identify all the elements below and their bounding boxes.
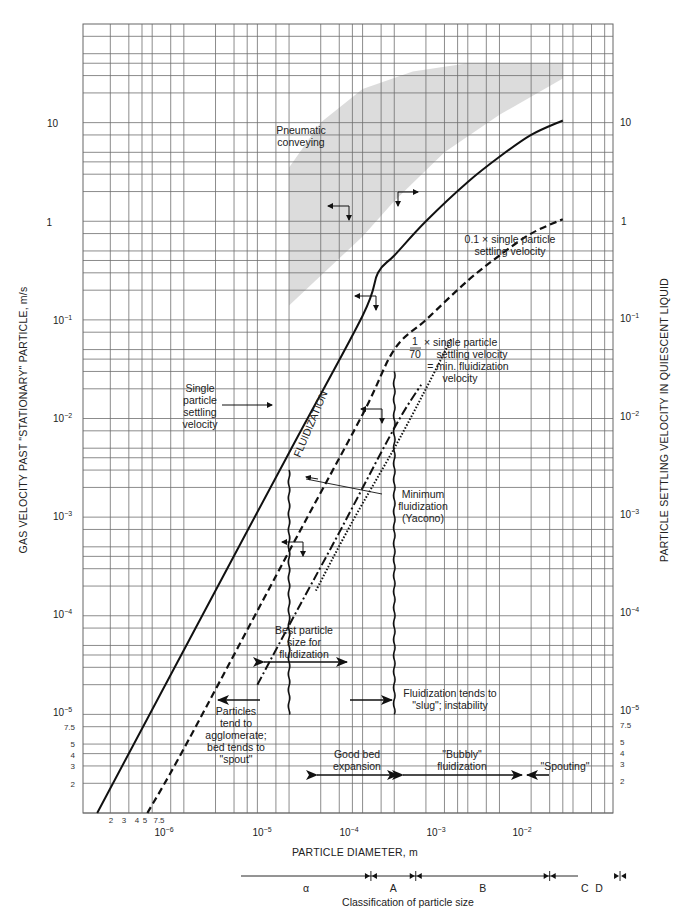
y-minor-label-right: 2 [620,777,625,786]
y-tick-label-right: 10−2 [620,410,639,422]
classification-arrow-icon [365,873,370,879]
svg-text:expansion: expansion [333,760,381,772]
y-tick-label: 10 [47,118,59,129]
svg-text:Particles: Particles [216,705,256,717]
svg-text:Good bed: Good bed [334,748,380,760]
y-tick-label: 10−5 [53,706,72,718]
x-axis-ticks: 2 3 4 5 7.5 10−6 10−5 10−4 10−3 10−2 [109,816,532,838]
x-tick-label: 10−4 [339,826,358,838]
svg-text:Pneumatic: Pneumatic [276,124,326,136]
y-axis-left-ticks: 10 1 10−1 10−2 10−3 10−4 10−5 7.5 5 4 3 … [46,118,75,789]
svg-text:size for: size for [287,636,321,648]
y-tick-label: 1 [46,217,52,228]
x-minor-label: 5 [143,816,148,825]
svg-text:agglomerate;: agglomerate; [205,729,266,741]
svg-text:settling velocity: settling velocity [436,348,508,360]
svg-text:velocity: velocity [442,372,478,384]
x-tick-label: 10−3 [426,826,445,838]
svg-text:Best particle: Best particle [275,624,333,636]
annotation-best-size: Best particle size for fluidization [275,624,333,660]
x-tick-label: 10−5 [252,826,271,838]
svg-text:bed tends to: bed tends to [207,741,265,753]
svg-text:Minimum: Minimum [402,488,445,500]
particle-classification: αABCD [241,871,626,894]
classification-arrow-icon [551,873,556,879]
svg-text:tend to: tend to [220,717,252,729]
y-axis-right-ticks: 10 1 10−1 10−2 10−3 10−4 10−5 7.5 5 4 3 … [620,117,639,786]
x-minor-label: 7.5 [153,816,165,825]
y-axis-title-right: PARTICLE SETTLING VELOCITY IN QUIESCENT … [658,278,670,562]
x-minor-label: 3 [122,816,127,825]
annotation-pneumatic: Pneumatic conveying [276,124,326,148]
svg-text:0.1 × single particle: 0.1 × single particle [465,233,556,245]
svg-text:velocity: velocity [182,418,218,430]
y-axis-title-left: GAS VELOCITY PAST "STATIONARY" PARTICLE,… [17,287,29,554]
min-fluidization-leader [306,479,382,494]
classification-arrow-icon [372,873,377,879]
y-tick-label: 10−3 [53,510,72,522]
min-fluidization-arrow-icon [306,477,318,479]
svg-text:70: 70 [409,348,421,360]
y-tick-label: 10−2 [53,412,72,424]
svg-text:1: 1 [412,335,418,347]
annotation-slug: Fluidization tends to "slug"; instabilit… [403,687,497,711]
y-tick-label: 10−1 [53,314,72,326]
y-minor-label: 7.5 [64,723,76,732]
annotation-bubbly: "Bubbly" fluidization [437,748,487,772]
classification-label: B [479,882,486,894]
classification-label: C [581,882,589,894]
y-tick-label-right: 10 [620,117,632,128]
svg-text:"Bubbly": "Bubbly" [442,748,482,760]
svg-text:fluidization: fluidization [437,760,487,772]
classification-arrow-icon [621,873,626,879]
annotation-spouting: "Spouting" [541,760,590,772]
svg-text:fluidization: fluidization [279,648,329,660]
svg-text:conveying: conveying [277,136,324,148]
svg-text:settling velocity: settling velocity [474,245,546,257]
svg-text:(Yacono): (Yacono) [402,512,444,524]
x-minor-label: 2 [109,816,114,825]
y-minor-label: 2 [71,780,76,789]
x-tick-label: 10−2 [512,826,531,838]
svg-text:Fluidization tends to: Fluidization tends to [403,687,497,699]
classification-label: D [595,882,603,894]
svg-text:"spout": "spout" [219,753,252,765]
y-tick-label-right: 1 [621,216,627,227]
y-minor-label-right: 5 [620,738,625,747]
fluidization-chart: 10 1 10−1 10−2 10−3 10−4 10−5 7.5 5 4 3 … [0,0,691,923]
y-minor-label: 4 [71,751,76,760]
classification-arrow-icon [410,873,415,879]
svg-text:particle: particle [183,394,217,406]
svg-text:settling: settling [183,406,216,418]
x-tick-label: 10−6 [154,826,173,838]
classification-label: A [390,882,397,894]
y-minor-label-right: 4 [620,749,625,758]
annotation-single-particle: Single particle settling velocity [182,382,218,430]
annotation-good-bed: Good bed expansion [333,748,381,772]
classification-label: α [303,882,309,894]
y-tick-label-right: 10−3 [620,508,639,520]
classification-title: Classification of particle size [342,896,474,908]
y-minor-label-right: 7.5 [620,721,632,730]
classification-arrow-icon [417,873,422,879]
y-minor-label: 5 [71,740,76,749]
svg-text:Single: Single [185,382,214,394]
y-tick-label-right: 10−1 [620,312,639,324]
y-tick-label: 10−4 [53,608,72,620]
classification-arrow-icon [614,873,619,879]
svg-text:fluidization: fluidization [398,500,448,512]
svg-text:= min. fluidization: = min. fluidization [427,360,509,372]
svg-text:× single particle: × single particle [424,336,497,348]
y-minor-label-right: 3 [620,760,625,769]
annotation-tenth-settling: 0.1 × single particle settling velocity [465,233,556,257]
y-tick-label-right: 10−5 [620,704,639,716]
x-minor-label: 4 [135,816,140,825]
x-axis-title: PARTICLE DIAMETER, m [292,846,418,858]
annotation-min-fluidization: Minimum fluidization (Yacono) [398,488,448,524]
series-line-dashed [147,219,562,813]
classification-arrow-icon [544,873,549,879]
y-minor-label: 3 [71,762,76,771]
y-tick-label-right: 10−4 [620,606,639,618]
svg-text:"slug"; instability: "slug"; instability [412,699,488,711]
